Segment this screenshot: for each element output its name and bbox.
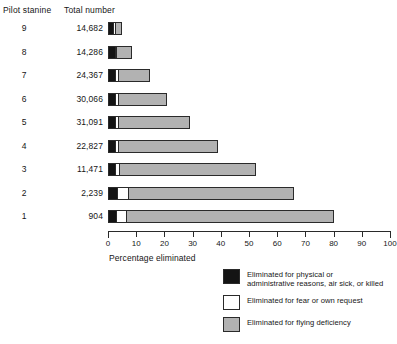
bar-container [108,46,390,59]
bar-segment-physical-administrative [109,211,116,222]
stacked-bar [108,163,256,176]
x-axis-tick [108,231,109,238]
chart-row: 22,239 [0,182,397,204]
row-stanine-label: 7 [0,64,48,86]
bar-segment-physical-administrative [109,188,117,199]
x-axis-tick [221,231,222,237]
bar-segment-fear-own-request [116,211,127,222]
row-stanine-label: 8 [0,41,48,63]
x-axis-tick-label: 50 [237,239,261,248]
bar-segment-flying-deficiency [117,47,131,58]
x-axis-tick [193,231,194,237]
chart-row: 814,286 [0,41,397,63]
row-total-number: 24,367 [54,64,103,86]
chart-row: 311,471 [0,158,397,180]
stacked-bar [108,187,294,200]
x-axis-tick [136,231,137,237]
bar-segment-flying-deficiency [119,94,166,105]
row-stanine-label: 4 [0,135,48,157]
row-stanine-label: 1 [0,205,48,227]
x-axis-tick [305,231,306,237]
legend-item: Eliminated for physical or administrativ… [223,269,397,289]
stacked-bar [108,46,132,59]
chart-row: 630,066 [0,88,397,110]
x-axis-tick [334,231,335,237]
bar-container [108,163,390,176]
bar-container [108,187,390,200]
column-header-pilot-stanine: Pilot stanine [3,5,51,15]
chart-row: 422,827 [0,135,397,157]
bar-container [108,69,390,82]
legend-item-label: Eliminated for fear or own request [247,295,363,305]
x-axis-tick [164,231,165,237]
row-total-number: 14,286 [54,41,103,63]
x-axis-title: Percentage eliminated [109,253,196,263]
bar-segment-flying-deficiency [127,211,332,222]
x-axis-tick-label: 100 [378,239,397,248]
x-axis-tick [249,231,250,237]
stacked-bar [108,22,122,35]
row-total-number: 22,827 [54,135,103,157]
row-stanine-label: 5 [0,111,48,133]
bar-container [108,22,390,35]
bar-segment-fear-own-request [117,188,128,199]
chart-row: 914,682 [0,17,397,39]
stacked-bar-chart: Pilot stanine Total number 914,682814,28… [0,0,397,344]
stacked-bar [108,140,218,153]
legend-item-label: Eliminated for flying deficiency [247,317,351,327]
stacked-bar [108,116,190,129]
bar-container [108,210,390,223]
bar-segment-flying-deficiency [119,117,189,128]
x-axis-tick-label: 20 [152,239,176,248]
chart-row: 531,091 [0,111,397,133]
stacked-bar [108,69,150,82]
bar-segment-flying-deficiency [120,164,255,175]
chart-legend: Eliminated for physical or administrativ… [223,269,397,339]
stacked-bar [108,93,167,106]
chart-row: 724,367 [0,64,397,86]
row-total-number: 14,682 [54,17,103,39]
legend-swatch-black [223,269,240,284]
bar-container [108,116,390,129]
stacked-bar [108,210,334,223]
row-stanine-label: 3 [0,158,48,180]
row-total-number: 31,091 [54,111,103,133]
row-stanine-label: 9 [0,17,48,39]
x-axis-tick-label: 70 [293,239,317,248]
legend-swatch-gray [223,317,240,332]
x-axis-tick-label: 90 [350,239,374,248]
row-stanine-label: 2 [0,182,48,204]
bar-segment-flying-deficiency [119,70,149,81]
chart-row: 1904 [0,205,397,227]
bar-segment-flying-deficiency [119,141,217,152]
x-axis-tick-label: 80 [322,239,346,248]
legend-item: Eliminated for flying deficiency [223,317,397,333]
x-axis-tick-label: 0 [96,239,120,248]
bar-container [108,140,390,153]
x-axis-tick [390,231,391,238]
column-header-total-number: Total number [64,5,115,15]
row-total-number: 904 [54,205,103,227]
x-axis-tick [362,231,363,237]
row-total-number: 30,066 [54,88,103,110]
bar-segment-flying-deficiency [116,23,121,34]
x-axis-tick-label: 10 [124,239,148,248]
legend-swatch-white [223,295,240,310]
bar-container [108,93,390,106]
bar-segment-flying-deficiency [129,188,293,199]
row-total-number: 11,471 [54,158,103,180]
legend-item: Eliminated for fear or own request [223,295,397,311]
row-total-number: 2,239 [54,182,103,204]
x-axis-tick [277,231,278,237]
x-axis-tick-label: 30 [181,239,205,248]
x-axis-tick-label: 40 [209,239,233,248]
row-stanine-label: 6 [0,88,48,110]
legend-item-label: Eliminated for physical or administrativ… [247,269,383,289]
x-axis-tick-label: 60 [265,239,289,248]
